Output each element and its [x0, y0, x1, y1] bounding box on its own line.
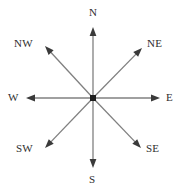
compass-label-northwest: NW: [14, 38, 33, 49]
compass-arrowhead-west: [26, 95, 35, 102]
compass-ray-northwest: [50, 52, 93, 98]
compass-ray-northeast: [93, 53, 137, 98]
compass-center-dot: [90, 95, 96, 101]
compass-label-northeast: NE: [147, 38, 162, 49]
compass-label-north: N: [89, 7, 97, 18]
compass-label-south: S: [89, 174, 95, 185]
compass-ray-southwest: [50, 98, 93, 143]
compass-arrowhead-north: [90, 27, 97, 36]
compass-arrowhead-east: [151, 95, 160, 102]
compass-label-west: W: [8, 92, 19, 103]
compass-label-east: E: [166, 92, 173, 103]
compass-rose-figure: NNEESESSWWNW: [0, 0, 185, 193]
compass-rose-graphic: [0, 0, 185, 193]
compass-label-southwest: SW: [16, 143, 33, 154]
compass-label-southeast: SE: [146, 143, 159, 154]
compass-ray-southeast: [93, 98, 136, 143]
compass-arrowhead-south: [90, 159, 97, 168]
